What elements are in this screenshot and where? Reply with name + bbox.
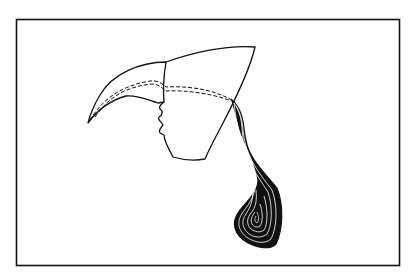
frame-border [17, 20, 400, 266]
line-drawing [0, 0, 414, 278]
dashed-band [90, 81, 232, 120]
head-shape [88, 47, 255, 160]
hair-strand [232, 100, 282, 248]
